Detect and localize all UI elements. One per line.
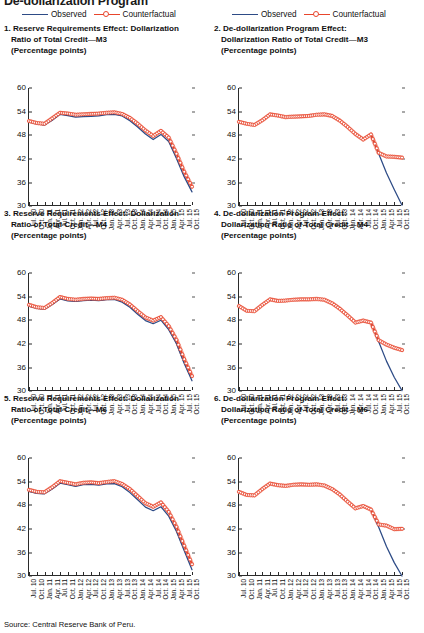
- counterfactual-marker: [185, 362, 188, 365]
- panel-title-6: 6. De-dollarization Program Effect:Dolla…: [214, 394, 414, 426]
- panel-title-line1: 5. Reserve Requirements Effect: Dollariz…: [4, 394, 204, 405]
- counterfactual-marker: [177, 530, 180, 533]
- counterfactual-marker: [191, 185, 194, 188]
- counterfactual-marker: [369, 508, 372, 511]
- x-axis-label: Oct. 11: [70, 579, 76, 599]
- counterfactual-line: [29, 297, 192, 376]
- plot-area-5: 303642485460Jul. 10Oct. 10Jan. 11Apr. 11…: [4, 426, 204, 590]
- chart-panel-4: 4. De-dollarization Program Effect:Dolla…: [214, 209, 414, 405]
- counterfactual-marker: [171, 518, 174, 521]
- panel-title-4: 4. De-dollarization Program Effect:Dolla…: [214, 209, 414, 241]
- x-axis-label: Oct. 10: [39, 579, 45, 600]
- plot-frame: 303642485460Jul. 10Oct. 10Jan. 11Apr. 11…: [238, 458, 401, 576]
- x-axis-label: Oct. 12: [101, 579, 107, 600]
- counterfactual-marker: [189, 182, 192, 185]
- series-layer: [29, 458, 192, 576]
- panel-title-3: 3. Reserve Requirements Effect: Dollariz…: [4, 209, 204, 241]
- x-axis-label: Oct. 15: [194, 579, 200, 600]
- series-layer: [29, 88, 192, 206]
- y-axis-label: 48: [227, 501, 236, 509]
- series-layer: [239, 273, 402, 391]
- counterfactual-halo: [29, 481, 192, 564]
- counterfactual-marker: [375, 335, 378, 338]
- y-axis-label: 36: [17, 549, 26, 557]
- observed-line-swatch-icon: [22, 14, 48, 15]
- counterfactual-marker: [175, 526, 178, 529]
- counterfactual-marker: [371, 138, 374, 141]
- x-axis-label: Apr. 15: [179, 579, 185, 599]
- y-axis-tick-right: [192, 159, 196, 160]
- y-axis-label: 48: [17, 131, 26, 139]
- y-axis-label: 54: [17, 293, 26, 301]
- panel-subtitle: (Percentage points): [214, 416, 414, 427]
- x-axis-label: Jul. 12: [93, 579, 99, 598]
- y-axis-label: 36: [227, 549, 236, 557]
- x-axis-label: Oct. 10: [249, 579, 255, 600]
- counterfactual-marker: [369, 133, 372, 136]
- legend-entry-observed: Observed: [232, 10, 297, 19]
- counterfactual-line-marker-icon: [304, 11, 330, 18]
- y-axis-label: 42: [17, 525, 26, 533]
- counterfactual-marker: [169, 514, 172, 517]
- panel-title-line2: Ratio of Total Credit—M4: [4, 220, 204, 231]
- legend-left-column: Observed Counterfactual: [22, 10, 176, 19]
- legend-label-counterfactual: Counterfactual: [333, 10, 386, 19]
- y-axis-label: 30: [17, 572, 26, 580]
- plot-area-4: 303642485460Jul. 10Oct. 10Jan. 11Apr. 11…: [214, 241, 414, 405]
- counterfactual-line: [29, 481, 192, 564]
- counterfactual-line-marker-icon: [94, 11, 120, 18]
- x-axis-tick: [192, 202, 193, 205]
- counterfactual-marker: [373, 330, 376, 333]
- y-axis-tick-right: [192, 320, 196, 321]
- panel-title-2: 2. De-dollarization Program Effect:Dolla…: [214, 24, 414, 56]
- observed-line: [239, 115, 402, 206]
- plot-area-1: 303642485460Jul. 10Oct. 10Jan. 11Apr. 11…: [4, 56, 204, 220]
- x-axis-label: Jan. 13: [319, 579, 325, 600]
- panel-title-line2: Dollarization Ratio of Total Credit—M6: [214, 405, 414, 416]
- y-axis-tick-right: [192, 481, 196, 482]
- counterfactual-marker: [375, 147, 378, 150]
- counterfactual-marker: [369, 321, 372, 324]
- panel-subtitle: (Percentage points): [214, 231, 414, 242]
- figure-heading: De-dollarization Program: [4, 0, 148, 8]
- counterfactual-marker: [177, 157, 180, 160]
- x-axis-label: Apr. 15: [389, 579, 395, 599]
- x-axis-label: Oct. 12: [311, 579, 317, 600]
- y-axis-label: 54: [227, 108, 236, 116]
- chart-panel-2: 2. De-dollarization Program Effect:Dolla…: [214, 24, 414, 220]
- counterfactual-halo: [29, 297, 192, 376]
- y-axis-label: 60: [227, 454, 236, 462]
- plot-frame: 303642485460Jul. 10Oct. 10Jan. 11Apr. 11…: [28, 88, 191, 206]
- counterfactual-marker: [167, 511, 170, 514]
- observed-line: [29, 299, 192, 381]
- y-axis-tick-right: [192, 111, 196, 112]
- chart-panel-5: 5. Reserve Requirements Effect: Dollariz…: [4, 394, 204, 590]
- plot-area-6: 303642485460Jul. 10Oct. 10Jan. 11Apr. 11…: [214, 426, 414, 590]
- panel-subtitle: (Percentage points): [4, 231, 204, 242]
- y-axis-label: 48: [227, 131, 236, 139]
- y-axis-tick-right: [192, 296, 196, 297]
- x-axis-label: Jan. 12: [78, 579, 84, 600]
- counterfactual-marker: [183, 358, 186, 361]
- x-axis-label: Apr. 14: [358, 579, 364, 599]
- y-axis-label: 36: [227, 364, 236, 372]
- y-axis-tick-right: [192, 88, 196, 89]
- legend-label-observed: Observed: [261, 10, 297, 19]
- plot-frame: 303642485460Jul. 10Oct. 10Jan. 11Apr. 11…: [238, 273, 401, 391]
- observed-line: [29, 483, 192, 570]
- y-axis-tick-right: [402, 320, 406, 321]
- x-axis-label: Jan. 15: [381, 579, 387, 600]
- counterfactual-marker: [187, 554, 190, 557]
- series-layer: [239, 458, 402, 576]
- observed-line: [239, 484, 402, 576]
- panel-title-line2: Ratio of Total Credit—M6: [4, 405, 204, 416]
- x-axis-label: Apr. 13: [327, 579, 333, 599]
- y-axis-label: 36: [227, 179, 236, 187]
- x-axis-label: Apr. 13: [117, 579, 123, 599]
- counterfactual-marker: [189, 371, 192, 374]
- y-axis-label: 48: [227, 316, 236, 324]
- y-axis-label: 54: [227, 478, 236, 486]
- legend-entry-observed: Observed: [22, 10, 87, 19]
- counterfactual-marker: [191, 375, 194, 378]
- panel-title-line2: Ratio of Total Credit—M3: [4, 35, 204, 46]
